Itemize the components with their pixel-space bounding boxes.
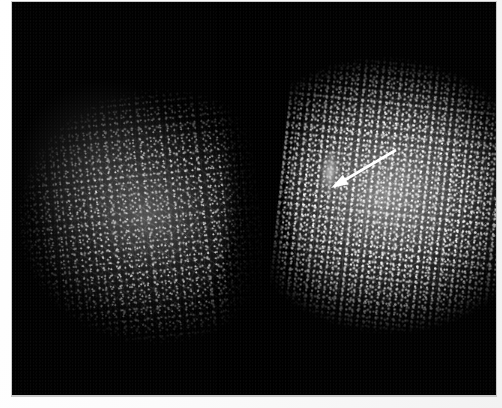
annotation-arrow-overlay — [12, 2, 496, 395]
pointer-arrow-icon — [331, 150, 396, 188]
radiograph-film — [12, 2, 496, 395]
arrow-head — [331, 175, 348, 188]
arrow-shaft — [344, 150, 396, 180]
page-background — [0, 0, 502, 408]
